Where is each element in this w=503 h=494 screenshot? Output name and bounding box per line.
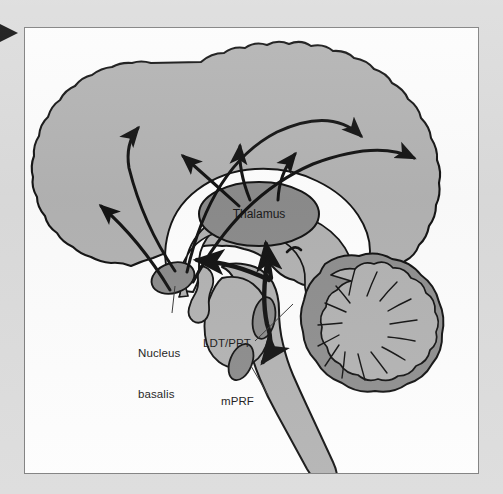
label-nucleus-basalis-line1: Nucleus [138,347,180,361]
label-nucleus-basalis: Nucleus basalis [138,320,180,428]
page-background: Thalamus [0,0,503,494]
figure-panel: Thalamus [24,27,479,474]
label-nucleus-basalis-line2: basalis [138,388,180,402]
label-mprf: mPRF [221,395,254,409]
cerebellum [301,254,444,392]
label-ldt-ppt: LDT/PPT [203,337,251,351]
left-edge-triangle-marker [0,24,18,42]
